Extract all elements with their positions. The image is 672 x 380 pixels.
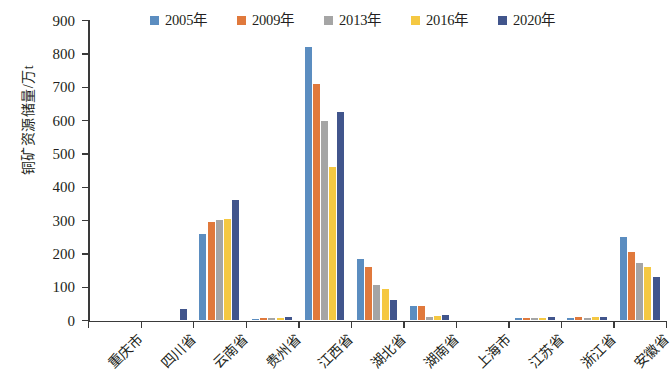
bar[interactable] [208, 222, 215, 320]
bar[interactable] [644, 267, 651, 320]
bar[interactable] [365, 267, 372, 320]
y-tick-label: 800 [53, 47, 76, 62]
bar[interactable] [321, 121, 328, 320]
bar[interactable] [382, 289, 389, 321]
bar[interactable] [567, 318, 574, 320]
bar-group [351, 20, 404, 320]
bar[interactable] [515, 318, 522, 321]
x-tick-mark [246, 321, 247, 328]
y-tick-label: 600 [53, 113, 76, 128]
bar[interactable] [357, 259, 364, 321]
bar[interactable] [426, 317, 433, 320]
bar[interactable] [216, 220, 223, 320]
bar[interactable] [313, 84, 320, 321]
y-tick-label: 200 [53, 247, 76, 262]
x-tick-mark [666, 321, 667, 328]
y-tick-label: 0 [68, 313, 76, 328]
bar[interactable] [575, 317, 582, 320]
bar[interactable] [285, 317, 292, 320]
x-axis-line [88, 321, 666, 323]
x-tick-mark [88, 321, 89, 328]
bar[interactable] [636, 263, 643, 320]
x-axis-label: 湖北省 [369, 332, 409, 372]
y-tick-label: 300 [53, 213, 76, 228]
bar-group [456, 20, 509, 320]
bar[interactable] [539, 318, 546, 320]
bar-group [246, 20, 299, 320]
x-axis-label: 贵州省 [264, 332, 304, 372]
bar[interactable] [260, 318, 267, 321]
bar[interactable] [600, 317, 607, 320]
x-tick-mark [193, 321, 194, 328]
x-axis-label: 四川省 [159, 332, 199, 372]
bar[interactable] [653, 277, 660, 320]
bar[interactable] [232, 200, 239, 320]
bar[interactable] [418, 306, 425, 320]
bar[interactable] [584, 318, 591, 321]
bar[interactable] [373, 285, 380, 320]
y-tick-label: 100 [53, 280, 76, 295]
bar-group [88, 20, 141, 320]
y-axis-title: 铜矿资源储量/万t [17, 0, 37, 245]
bar[interactable] [337, 112, 344, 320]
x-axis-label: 湖南省 [422, 332, 462, 372]
bar-group [613, 20, 666, 320]
bar[interactable] [199, 234, 206, 321]
y-tick-label: 700 [53, 80, 76, 95]
bar[interactable] [180, 309, 187, 320]
bar[interactable] [305, 47, 312, 320]
x-tick-mark [613, 321, 614, 328]
x-axis-label: 重庆市 [107, 332, 147, 372]
x-tick-mark [351, 321, 352, 328]
y-tick-label: 900 [53, 13, 76, 28]
x-tick-mark [298, 321, 299, 328]
bar-group [193, 20, 246, 320]
bar-group [403, 20, 456, 320]
bar[interactable] [592, 317, 599, 320]
bar-group [141, 20, 194, 320]
x-tick-mark [508, 321, 509, 328]
bar[interactable] [268, 318, 275, 320]
x-tick-mark [456, 321, 457, 328]
bar[interactable] [434, 316, 441, 320]
bar[interactable] [523, 318, 530, 320]
x-tick-mark [141, 321, 142, 328]
bar[interactable] [277, 318, 284, 320]
x-axis-label: 江西省 [317, 332, 357, 372]
x-axis-label: 安徽省 [632, 332, 672, 372]
x-axis-label: 云南省 [212, 332, 252, 372]
bar[interactable] [531, 318, 538, 320]
bar-chart: 2005年2009年2013年2016年2020年 铜矿资源储量/万t 9008… [0, 0, 672, 380]
x-axis-label: 江苏省 [527, 332, 567, 372]
plot-area: 9008007006005004003002001000 [88, 20, 666, 322]
x-axis-label: 浙江省 [579, 332, 619, 372]
bar-group [508, 20, 561, 320]
bar[interactable] [548, 317, 555, 320]
x-tick-mark [561, 321, 562, 328]
bar[interactable] [442, 315, 449, 320]
x-tick-mark [403, 321, 404, 328]
x-axis-label: 上海市 [474, 332, 514, 372]
bar[interactable] [628, 252, 635, 320]
y-tick-label: 400 [53, 180, 76, 195]
bar-group [298, 20, 351, 320]
y-tick-label: 500 [53, 147, 76, 162]
bar[interactable] [390, 300, 397, 320]
bar[interactable] [224, 219, 231, 320]
bar-group [561, 20, 614, 320]
bar[interactable] [252, 319, 259, 321]
bar[interactable] [410, 306, 417, 320]
bar[interactable] [329, 167, 336, 320]
bar[interactable] [620, 237, 627, 320]
